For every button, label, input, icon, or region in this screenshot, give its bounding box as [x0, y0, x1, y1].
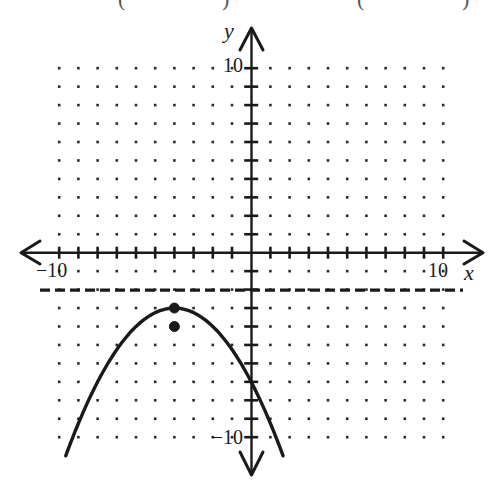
grid-dot	[135, 141, 138, 144]
grid-dot	[192, 67, 195, 70]
grid-dot	[231, 178, 234, 181]
grid-dot	[423, 233, 426, 236]
grid-dot	[404, 307, 407, 310]
grid-dot	[442, 85, 445, 88]
grid-dot	[173, 159, 176, 162]
grid-dot	[192, 215, 195, 218]
grid-dot	[327, 141, 330, 144]
grid-dot	[365, 215, 368, 218]
grid-dot	[308, 436, 311, 439]
grid-dot	[231, 399, 234, 402]
graph-figure: ( ) ( ) y x 10 −10 −10 10	[0, 0, 494, 485]
grid-dot	[173, 141, 176, 144]
grid-dot	[173, 67, 176, 70]
grid-dot	[288, 381, 291, 384]
grid-dot	[269, 159, 272, 162]
grid-dot	[58, 215, 61, 218]
grid-dot	[231, 288, 234, 291]
grid-dot	[96, 436, 99, 439]
grid-dot	[327, 436, 330, 439]
grid-dot	[442, 233, 445, 236]
grid-dot	[327, 122, 330, 125]
grid-dot	[116, 67, 119, 70]
grid-dot	[404, 325, 407, 328]
grid-dot	[135, 399, 138, 402]
grid-dot	[173, 270, 176, 273]
grid-dot	[192, 417, 195, 420]
grid-dot	[192, 270, 195, 273]
grid-dot	[346, 67, 349, 70]
grid-dot	[308, 233, 311, 236]
grid-dot	[288, 104, 291, 107]
y-min-tick-label: −10	[212, 426, 243, 448]
grid-dot	[269, 178, 272, 181]
grid-dot	[116, 141, 119, 144]
grid-dot	[154, 399, 157, 402]
grid-dot	[77, 215, 80, 218]
grid-dot	[135, 104, 138, 107]
grid-dot	[308, 307, 311, 310]
grid-dot	[116, 417, 119, 420]
grid-dot	[269, 122, 272, 125]
grid-dot	[269, 381, 272, 384]
grid-dot	[77, 141, 80, 144]
grid-dot	[288, 233, 291, 236]
grid-dot	[212, 122, 215, 125]
grid-dot	[404, 344, 407, 347]
grid-dot	[442, 399, 445, 402]
grid-dot	[58, 399, 61, 402]
grid-dot	[116, 381, 119, 384]
grid-dot	[288, 344, 291, 347]
grid-dot	[365, 362, 368, 365]
grid-dot	[365, 307, 368, 310]
grid-dot	[327, 362, 330, 365]
grid-dot	[327, 399, 330, 402]
grid-dot	[192, 104, 195, 107]
cropped-text-fragment: )	[222, 0, 229, 11]
grid-dot	[288, 270, 291, 273]
grid-dot	[116, 104, 119, 107]
grid-dot	[154, 196, 157, 199]
grid-dot	[135, 215, 138, 218]
grid-dot	[365, 436, 368, 439]
grid-dot	[154, 344, 157, 347]
grid-dot	[135, 362, 138, 365]
grid-dot	[308, 122, 311, 125]
grid-dot	[231, 159, 234, 162]
grid-dot	[384, 67, 387, 70]
grid-dot	[442, 288, 445, 291]
grid-dot	[346, 196, 349, 199]
grid-dot	[173, 362, 176, 365]
grid-dot	[154, 381, 157, 384]
grid-dot	[365, 196, 368, 199]
grid-dot	[346, 362, 349, 365]
grid-dot	[404, 141, 407, 144]
grid-dot	[192, 325, 195, 328]
grid-dot	[192, 344, 195, 347]
grid-dot	[404, 196, 407, 199]
plotted-points	[169, 303, 179, 331]
grid-dot	[212, 362, 215, 365]
grid-dot	[423, 67, 426, 70]
grid-dot	[288, 141, 291, 144]
grid-dot	[327, 178, 330, 181]
grid-dot	[404, 67, 407, 70]
grid-dot	[231, 381, 234, 384]
grid-dot	[269, 399, 272, 402]
grid-dot	[346, 159, 349, 162]
grid-dot	[404, 104, 407, 107]
grid-dot	[231, 141, 234, 144]
grid-dot	[346, 344, 349, 347]
grid-dot	[384, 307, 387, 310]
grid-dot	[77, 196, 80, 199]
grid-dot	[212, 381, 215, 384]
grid-dot	[269, 67, 272, 70]
grid-dot	[77, 233, 80, 236]
grid-dot	[154, 178, 157, 181]
grid-dot	[96, 178, 99, 181]
grid-dot	[384, 178, 387, 181]
grid-dot	[96, 159, 99, 162]
x-axis-label: x	[463, 260, 474, 285]
grid-dot	[154, 104, 157, 107]
grid-dot	[365, 85, 368, 88]
